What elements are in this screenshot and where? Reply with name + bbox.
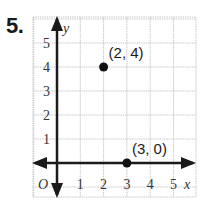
point-label: (3, 0) xyxy=(132,140,167,157)
x-axis-label: x xyxy=(183,177,191,192)
coordinate-plane: 12345 12345 O x y (2, 4)(3, 0) xyxy=(0,0,212,224)
y-tick-label: 1 xyxy=(43,132,50,147)
y-tick-label: 2 xyxy=(43,108,50,123)
y-tick-label: 3 xyxy=(43,84,50,99)
data-point xyxy=(122,159,131,168)
x-tick-label: 2 xyxy=(100,177,107,192)
data-point xyxy=(99,63,108,72)
x-tick-label: 3 xyxy=(123,177,130,192)
y-axis-label: y xyxy=(61,21,70,36)
point-label: (2, 4) xyxy=(109,44,144,61)
x-tick-label: 5 xyxy=(170,177,177,192)
y-tick-label: 5 xyxy=(43,36,50,51)
y-tick-labels: 12345 xyxy=(43,36,50,147)
x-tick-label: 1 xyxy=(77,177,84,192)
x-tick-label: 4 xyxy=(147,177,154,192)
x-tick-labels: 12345 xyxy=(77,177,177,192)
data-points: (2, 4)(3, 0) xyxy=(99,44,167,168)
y-tick-label: 4 xyxy=(43,60,50,75)
origin-label: O xyxy=(38,177,48,192)
